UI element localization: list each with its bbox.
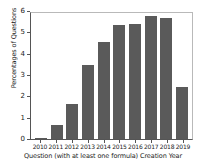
bar: [160, 18, 172, 139]
bar: [113, 25, 125, 139]
x-axis-label: Question (with at least one formula) Cre…: [0, 152, 206, 160]
x-axis-tick: 2011: [50, 140, 62, 152]
plot-area: [30, 12, 193, 140]
x-axis-tick: 2014: [98, 140, 110, 152]
bar: [51, 125, 63, 139]
bar: [82, 65, 94, 139]
bar: [129, 24, 141, 139]
y-tick-label: 4: [21, 50, 25, 58]
y-tick-label: 1: [21, 114, 25, 122]
x-axis-tick: 2013: [82, 140, 94, 152]
x-axis-tick: 2019: [177, 140, 189, 152]
x-axis-tick: 2012: [66, 140, 78, 152]
y-tick-label: 0: [21, 135, 25, 143]
bar: [35, 138, 47, 139]
y-tick-label: 5: [21, 28, 25, 36]
x-axis-tick: 2017: [145, 140, 157, 152]
bar: [145, 16, 157, 139]
y-axis-label: Percentages of Questions: [10, 0, 18, 100]
bar: [176, 87, 188, 139]
x-axis-tick: 2018: [161, 140, 173, 152]
y-tick-label: 2: [21, 92, 25, 100]
bar: [66, 104, 78, 139]
bar-chart-figure: 0 1 2 3 4 5 6 Percentages of Questions: [0, 0, 206, 167]
x-axis-tick: 2015: [113, 140, 125, 152]
bar-series: [31, 13, 192, 139]
x-axis-tick: 2016: [129, 140, 141, 152]
y-tick-label: 3: [21, 71, 25, 79]
bar: [98, 42, 110, 139]
x-axis: 2010 2011 2012 2013 2014 2015 2016 2017: [30, 140, 193, 152]
x-axis-tick: 2010: [34, 140, 46, 152]
x-tick-label: 2019: [174, 143, 192, 150]
y-tick-label: 6: [21, 7, 25, 15]
